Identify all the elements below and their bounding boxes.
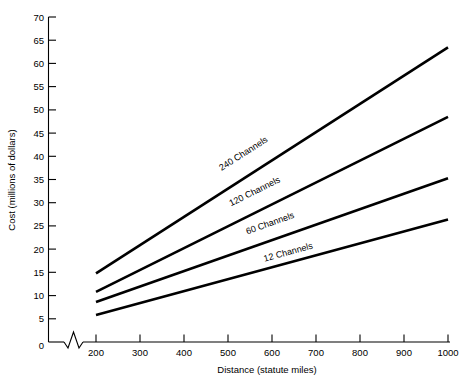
y-tick-label: 25 <box>33 220 44 231</box>
y-tick-label: 10 <box>33 290 44 301</box>
x-tick-label: 500 <box>220 347 236 358</box>
y-axis-origin-label: 0 <box>39 340 44 351</box>
x-axis-title: Distance (statute miles) <box>217 364 316 375</box>
chart-container: 70 65 60 55 50 45 40 35 30 25 20 15 10 5… <box>0 0 472 381</box>
y-axis-title: Cost (millions of dollars) <box>6 129 17 230</box>
x-tick-label: 700 <box>308 347 324 358</box>
y-tick-label: 35 <box>33 174 44 185</box>
x-tick-label: 200 <box>88 347 104 358</box>
x-tick-label: 800 <box>352 347 368 358</box>
x-tick-label: 400 <box>176 347 192 358</box>
line-chart: 70 65 60 55 50 45 40 35 30 25 20 15 10 5… <box>0 0 472 381</box>
y-tick-label: 20 <box>33 244 44 255</box>
y-axis-tick-labels: 70 65 60 55 50 45 40 35 30 25 20 15 10 5… <box>33 12 44 352</box>
x-tick-label: 1000 <box>437 347 458 358</box>
chart-background <box>0 0 472 381</box>
y-tick-label: 15 <box>33 267 44 278</box>
y-tick-label: 45 <box>33 128 44 139</box>
x-axis-tick-labels: 200 300 400 500 600 700 800 900 1000 <box>88 347 459 358</box>
y-tick-label: 40 <box>33 151 44 162</box>
y-tick-label: 70 <box>33 12 44 23</box>
x-tick-label: 300 <box>132 347 148 358</box>
y-tick-label: 5 <box>39 313 44 324</box>
x-tick-label: 900 <box>396 347 412 358</box>
y-tick-label: 55 <box>33 81 44 92</box>
y-tick-label: 60 <box>33 58 44 69</box>
x-tick-label: 600 <box>264 347 280 358</box>
y-tick-label: 65 <box>33 35 44 46</box>
y-tick-label: 30 <box>33 197 44 208</box>
y-tick-label: 50 <box>33 104 44 115</box>
